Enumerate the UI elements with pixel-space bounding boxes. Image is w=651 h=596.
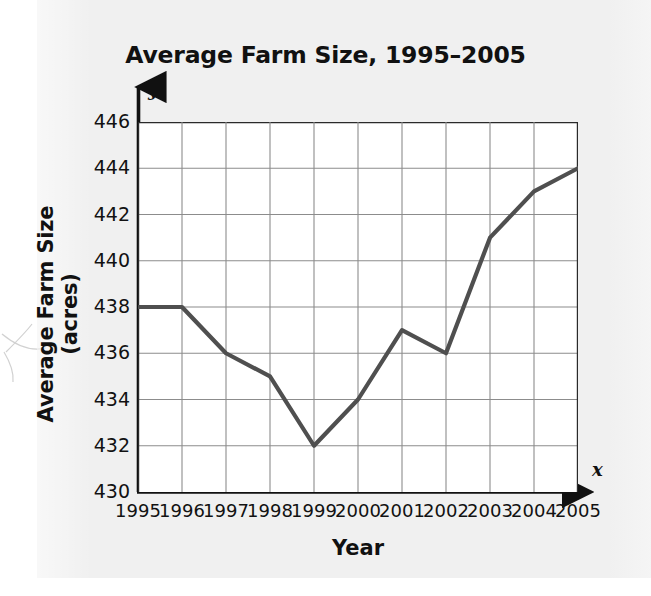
y-axis-tick-label: 446: [68, 110, 130, 132]
series-polyline: [138, 168, 578, 446]
plot-area: [138, 122, 578, 492]
x-axis-tick-labels: 1995199619971998199920002001200220032004…: [138, 500, 578, 530]
y-axis-variable-label: y: [148, 79, 158, 100]
x-axis-variable-label: x: [592, 459, 603, 480]
x-axis-tick-label: 2005: [550, 500, 606, 521]
data-series-line: [138, 122, 578, 492]
x-axis-title: Year: [138, 536, 578, 560]
y-axis-tick-label: 430: [68, 480, 130, 502]
y-axis-title: Average Farm Size (acres): [34, 164, 82, 464]
